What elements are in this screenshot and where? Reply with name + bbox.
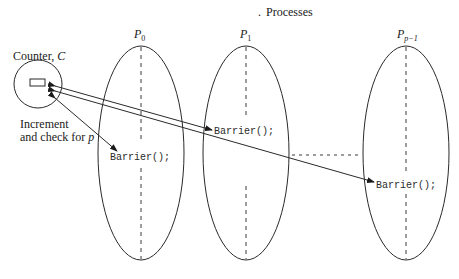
counter-register [30, 79, 45, 86]
barrier-diagram: . Processes Counter, C Increment and che… [0, 0, 459, 279]
counter-circle [14, 60, 62, 108]
process-label: P0 [133, 27, 145, 43]
arrow-pp-counter [55, 91, 374, 182]
process-label: P1 [239, 27, 251, 43]
process-label: Pp−1 [396, 27, 418, 43]
barrier-call: Barrier(); [376, 180, 436, 191]
svg-text:.: . [258, 5, 261, 19]
arrow-p1-counter [55, 86, 212, 130]
increment-label-line1: Increment [20, 117, 69, 131]
barrier-call: Barrier(); [110, 152, 170, 163]
diagram-title: Processes [266, 5, 313, 19]
barrier-call: Barrier(); [214, 126, 274, 137]
counter-label: Counter, C [13, 49, 66, 63]
increment-label-line2: and check for p [20, 130, 94, 144]
process-pp-minus-1: Pp−1 Barrier(); [363, 27, 449, 260]
process-p0: P0 Barrier(); [98, 27, 184, 260]
process-p1: P1 Barrier(); [203, 27, 289, 260]
